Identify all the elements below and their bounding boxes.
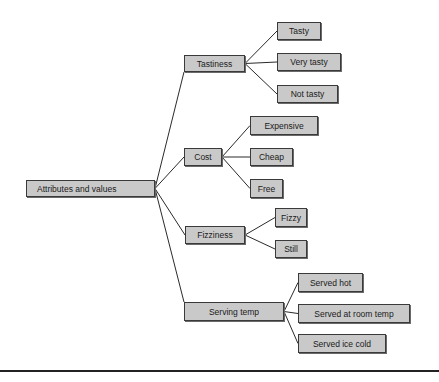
value-node-fizzy: Fizzy [275, 208, 307, 227]
attribute-node-cost: Cost [184, 148, 222, 166]
connector-line [284, 312, 298, 344]
value-node-free: Free [250, 179, 283, 198]
bottom-rule [0, 370, 439, 372]
connector-line [245, 235, 275, 249]
connector-line [155, 72, 184, 189]
connector-line [245, 218, 275, 236]
connector-line [222, 157, 250, 189]
connector-line [284, 283, 298, 312]
attribute-node-fizziness-label: Fizziness [197, 230, 232, 240]
connector-line [245, 62, 277, 64]
root-node: Attributes and values [26, 180, 155, 197]
value-node-cheap-label: Cheap [259, 152, 284, 162]
value-node-served-ice-cold-label: Served ice cold [313, 339, 371, 349]
value-node-served-hot: Served hot [298, 273, 363, 292]
value-node-still-label: Still [284, 244, 298, 254]
value-node-very-tasty-label: Very tasty [290, 57, 327, 67]
value-node-cheap: Cheap [250, 148, 293, 166]
connector-line [155, 189, 185, 236]
connector-line [284, 312, 298, 314]
value-node-very-tasty: Very tasty [277, 53, 341, 71]
attribute-node-cost-label: Cost [194, 152, 211, 162]
connector-line [155, 189, 184, 303]
connector-line [245, 64, 277, 95]
value-node-tasty-label: Tasty [289, 26, 309, 36]
value-node-still: Still [275, 240, 307, 258]
value-node-served-at-room-temp-label: Served at room temp [314, 309, 393, 319]
value-node-served-hot-label: Served hot [310, 278, 351, 288]
value-node-served-at-room-temp: Served at room temp [298, 304, 410, 323]
value-node-fizzy-label: Fizzy [281, 213, 301, 223]
attribute-node-serving-temp: Serving temp [184, 302, 284, 321]
attribute-node-serving-temp-label: Serving temp [209, 307, 259, 317]
value-node-not-tasty-label: Not tasty [291, 89, 325, 99]
attribute-node-tastiness: Tastiness [184, 55, 245, 72]
value-node-expensive: Expensive [250, 116, 318, 135]
value-node-not-tasty: Not tasty [277, 85, 338, 103]
value-node-free-label: Free [258, 184, 275, 194]
value-node-served-ice-cold: Served ice cold [298, 334, 386, 353]
value-node-expensive-label: Expensive [264, 121, 303, 131]
attribute-node-tastiness-label: Tastiness [197, 59, 232, 69]
value-node-tasty: Tasty [277, 22, 321, 40]
attribute-node-fizziness: Fizziness [185, 226, 245, 244]
root-node-label: Attributes and values [37, 184, 116, 194]
connector-line [222, 126, 250, 158]
connector-line [245, 31, 277, 64]
